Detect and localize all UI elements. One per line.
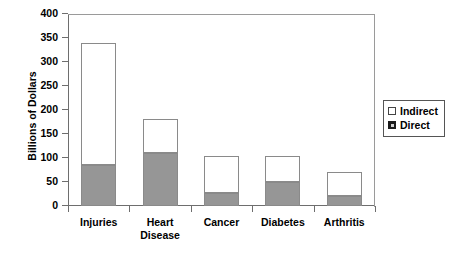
- legend-label-indirect: Indirect: [400, 106, 438, 117]
- bar-segment-indirect: [265, 156, 300, 182]
- chart-figure: Billions of Dollars 05010015020025030035…: [0, 0, 459, 268]
- legend: Indirect Direct: [383, 100, 445, 137]
- y-tick-label: 250: [18, 80, 58, 91]
- x-tick-mark: [314, 206, 315, 212]
- bar-heart-disease: [143, 119, 178, 206]
- x-tick-label: Diabetes: [252, 216, 313, 229]
- plot-right-border: [374, 14, 375, 207]
- y-tick-label: 150: [18, 128, 58, 139]
- x-tick-mark: [375, 206, 376, 212]
- bar-arthritis: [327, 172, 362, 206]
- bar-cancer: [204, 156, 239, 206]
- y-tick-label: 400: [18, 8, 58, 19]
- y-tick-label: 100: [18, 152, 58, 163]
- x-tick-label: Heart Disease: [129, 216, 190, 242]
- y-tick-label: 200: [18, 104, 58, 115]
- bar-segment-direct: [143, 153, 178, 206]
- bar-segment-direct: [81, 165, 116, 206]
- y-tick-label: 350: [18, 32, 58, 43]
- x-tick-mark: [191, 206, 192, 212]
- x-tick-mark: [252, 206, 253, 212]
- y-tick-mark: [62, 133, 68, 134]
- y-tick-label: 50: [18, 176, 58, 187]
- y-tick-mark: [62, 37, 68, 38]
- bar-segment-direct: [265, 182, 300, 206]
- bar-segment-indirect: [327, 172, 362, 196]
- y-tick-mark: [62, 181, 68, 182]
- bar-segment-direct: [327, 196, 362, 206]
- x-tick-mark: [129, 206, 130, 212]
- y-tick-mark: [62, 157, 68, 158]
- x-tick-mark: [68, 206, 69, 212]
- legend-item-indirect[interactable]: Indirect: [388, 104, 440, 118]
- x-tick-label: Cancer: [191, 216, 252, 229]
- y-tick-label: 300: [18, 56, 58, 67]
- y-tick-mark: [62, 109, 68, 110]
- y-tick-mark: [62, 85, 68, 86]
- bar-segment-indirect: [204, 156, 239, 192]
- legend-swatch-direct-icon: [388, 121, 396, 129]
- bar-segment-indirect: [81, 43, 116, 165]
- y-tick-mark: [62, 61, 68, 62]
- y-tick-label: 0: [18, 200, 58, 211]
- legend-item-direct[interactable]: Direct: [388, 118, 440, 132]
- bar-segment-direct: [204, 193, 239, 206]
- x-tick-label: Injuries: [68, 216, 129, 229]
- bar-diabetes: [265, 156, 300, 206]
- legend-swatch-indirect-icon: [388, 107, 396, 115]
- legend-label-direct: Direct: [400, 120, 430, 131]
- bar-segment-indirect: [143, 119, 178, 154]
- bar-injuries: [81, 43, 116, 206]
- y-tick-mark: [62, 13, 68, 14]
- plot-top-border: [68, 14, 375, 15]
- x-tick-label: Arthritis: [314, 216, 375, 229]
